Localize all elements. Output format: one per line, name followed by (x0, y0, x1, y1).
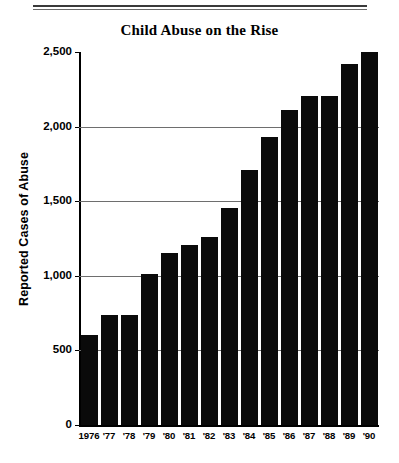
bar-79 (141, 274, 158, 425)
y-tick-mark-2500 (75, 52, 79, 53)
y-tick-label-1000: 1,000 (24, 269, 72, 281)
y-tick-mark-2000 (75, 127, 79, 128)
bar-1976 (81, 335, 98, 425)
x-tick-label-90: '90 (349, 430, 389, 441)
y-tick-label-2500: 2,500 (24, 45, 72, 57)
y-axis-title: Reported Cases of Abuse (17, 119, 31, 339)
y-tick-label-500: 500 (24, 343, 72, 355)
bar-series (79, 52, 379, 425)
bar-88 (321, 96, 338, 425)
bar-86 (281, 110, 298, 425)
bar-85 (261, 137, 278, 425)
y-tick-mark-1000 (75, 276, 79, 277)
y-tick-mark-1500 (75, 201, 79, 202)
rule-thick (33, 5, 367, 7)
bar-80 (161, 253, 178, 425)
y-tick-label-0: 0 (24, 418, 72, 430)
bar-82 (201, 237, 218, 425)
y-tick-label-1500: 1,500 (24, 194, 72, 206)
chart-figure: Child Abuse on the Rise Reported Cases o… (0, 0, 399, 463)
y-tick-mark-500 (75, 350, 79, 351)
chart-title: Child Abuse on the Rise (0, 22, 399, 39)
rule-thin (33, 9, 367, 10)
bar-89 (341, 64, 358, 425)
y-tick-label-2000: 2,000 (24, 120, 72, 132)
bar-87 (301, 96, 318, 425)
bar-81 (181, 245, 198, 425)
bar-90 (361, 52, 378, 425)
header-double-rule (33, 5, 367, 11)
y-tick-mark-0 (75, 425, 79, 426)
bar-78 (121, 315, 138, 425)
plot-area (79, 52, 379, 425)
bar-84 (241, 170, 258, 425)
bar-83 (221, 208, 238, 425)
bar-77 (101, 315, 118, 425)
x-axis-line (79, 425, 379, 427)
